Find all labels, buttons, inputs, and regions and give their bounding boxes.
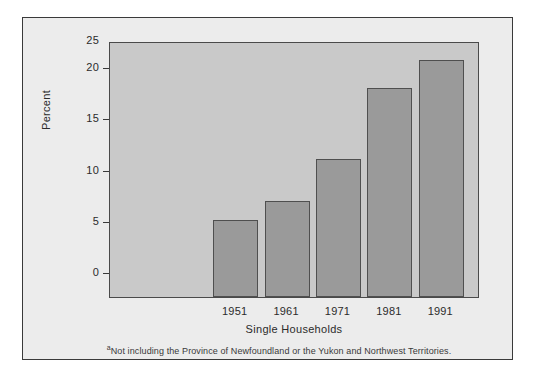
y-tick-label: 20 xyxy=(86,61,99,73)
bar-1951 xyxy=(213,220,258,297)
bar-1971 xyxy=(316,159,361,297)
x-tick-label-1951: 1951 xyxy=(206,305,263,317)
x-axis-title: Single Households xyxy=(109,323,479,335)
y-tick-label: 5 xyxy=(93,215,99,227)
bar-1991 xyxy=(419,60,464,297)
x-tick-label-1991: 1991 xyxy=(412,305,469,317)
y-axis-title: Percent xyxy=(40,116,52,130)
x-tick-label-1981: 1981 xyxy=(360,305,417,317)
bar-series xyxy=(110,43,478,297)
x-tick-label-1961: 1961 xyxy=(258,305,315,317)
chart-frame: 0 5 10 15 20 25 Percent xyxy=(22,17,513,360)
y-tick-label: 15 xyxy=(86,112,99,124)
x-tick-label-1971: 1971 xyxy=(309,305,366,317)
chart-figure: 0 5 10 15 20 25 Percent xyxy=(0,0,536,379)
footnote: aNot including the Province of Newfoundl… xyxy=(79,344,479,356)
bar-1981 xyxy=(367,88,412,297)
y-tick-label: 0 xyxy=(93,266,99,278)
y-axis: 0 5 10 15 20 25 xyxy=(23,18,109,359)
y-tick-label: 10 xyxy=(86,164,99,176)
bar-1961 xyxy=(265,201,310,297)
y-tick-label: 25 xyxy=(86,34,99,46)
footnote-text: Not including the Province of Newfoundla… xyxy=(111,346,452,356)
plot-area xyxy=(109,42,479,298)
